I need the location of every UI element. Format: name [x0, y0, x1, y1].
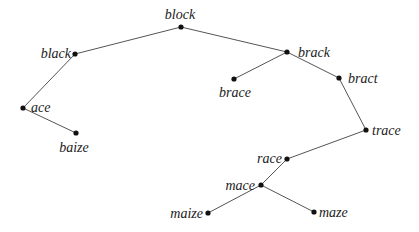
node-block: block [165, 7, 196, 30]
edge-brack-brace [234, 52, 287, 79]
node-brace: brace [219, 76, 251, 100]
node-label: ace [31, 100, 50, 115]
node-label: brack [298, 45, 331, 60]
node-race: race [257, 151, 289, 166]
node-dot [258, 182, 263, 187]
node-label: mace [225, 178, 255, 193]
node-mace: mace [225, 178, 263, 193]
node-dot [20, 105, 25, 110]
node-bract: bract [336, 71, 378, 86]
tree-diagram-svg: blockblackacebaizebrackbracebracttracera… [0, 0, 419, 232]
node-baize: baize [59, 130, 89, 155]
node-dot [311, 209, 316, 214]
node-dot [205, 210, 210, 215]
node-label: race [257, 151, 282, 166]
node-dot [284, 156, 289, 161]
tree-nodes: blockblackacebaizebrackbracebracttracera… [20, 7, 400, 221]
edge-trace-race [287, 130, 366, 159]
tree-diagram: blockblackacebaizebrackbracebracttracera… [0, 0, 419, 232]
node-dot [72, 51, 77, 56]
node-label: trace [372, 123, 401, 138]
node-label: bract [348, 71, 379, 86]
node-label: baize [59, 140, 89, 155]
node-maze: maze [311, 205, 347, 220]
node-label: brace [219, 85, 251, 100]
node-trace: trace [363, 123, 400, 138]
node-label: block [165, 7, 196, 22]
node-dot [73, 130, 78, 135]
node-ace: ace [20, 100, 50, 115]
node-label: black [41, 46, 72, 61]
node-black: black [41, 46, 78, 61]
node-brack: brack [284, 45, 330, 60]
edge-mace-maze [261, 185, 314, 212]
node-dot [336, 75, 341, 80]
edge-block-black [75, 27, 181, 54]
node-label: maze [319, 205, 348, 220]
node-dot [178, 24, 183, 29]
node-maize: maize [170, 206, 210, 221]
node-dot [284, 49, 289, 54]
node-label: maize [170, 206, 203, 221]
edge-block-brack [181, 27, 287, 52]
node-dot [231, 76, 236, 81]
node-dot [363, 127, 368, 132]
